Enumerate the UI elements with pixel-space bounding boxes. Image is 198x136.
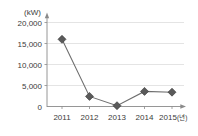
x-axis-tick-label-2013: 2013: [108, 113, 126, 122]
x-axis-tick-label-2014: 2014: [136, 113, 154, 122]
x-axis-tick-label-2012: 2012: [81, 113, 99, 122]
y-axis-tick-label-15000: 15,000: [18, 40, 43, 49]
chart-canvas: (kW) 20,000 15,000 10,000 5,000 0: [0, 0, 198, 136]
data-point-2013: [113, 102, 121, 110]
y-axis-unit-label: (kW): [24, 8, 41, 17]
line-chart-figure: (kW) 20,000 15,000 10,000 5,000 0: [0, 0, 198, 136]
gridlines: [47, 23, 184, 86]
data-point-2011: [58, 35, 66, 43]
data-point-2014: [141, 87, 149, 95]
series-markers: [58, 35, 176, 109]
x-axis-arrowhead: [180, 104, 186, 108]
data-point-2012: [86, 92, 94, 100]
y-axis-tick-label-20000: 20,000: [18, 19, 43, 28]
x-axis-tick-label-2015: 2015: [159, 113, 177, 122]
series-line-path: [62, 39, 172, 105]
data-point-2015: [168, 88, 176, 96]
y-axis-tick-label-0: 0: [38, 103, 43, 112]
y-axis-tick-label-10000: 10,000: [18, 61, 43, 70]
y-axis-arrowhead: [45, 13, 49, 19]
x-axis-tick-label-2011: 2011: [53, 113, 71, 122]
y-axis: [45, 13, 49, 108]
x-axis-unit-label: (년): [177, 113, 187, 122]
y-axis-tick-label-5000: 5,000: [22, 82, 43, 91]
